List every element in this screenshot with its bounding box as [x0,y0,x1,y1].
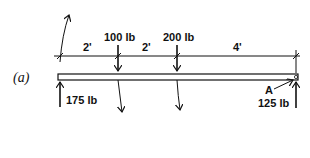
load-label-100: 100 lb [104,31,135,43]
pointer-arrow-icon [274,80,293,89]
figure-label: (a) [13,70,30,86]
reaction-label-right: 125 lb [258,97,289,109]
dimension-label-2: 2' [142,41,151,53]
deflection-arrow-icon [177,80,180,110]
load-label-200: 200 lb [163,31,194,43]
dimension-label-3: 4' [233,41,242,53]
beam [58,74,298,80]
deflection-arrow-icon [118,80,122,112]
reaction-label-left: 175 lb [66,94,97,106]
dimension-label-1: 2' [83,41,92,53]
point-a-label: A [265,84,273,96]
beam-diagram: 2' 2' 4' 100 lb 200 lb 175 lb 125 lb A (… [0,0,310,158]
